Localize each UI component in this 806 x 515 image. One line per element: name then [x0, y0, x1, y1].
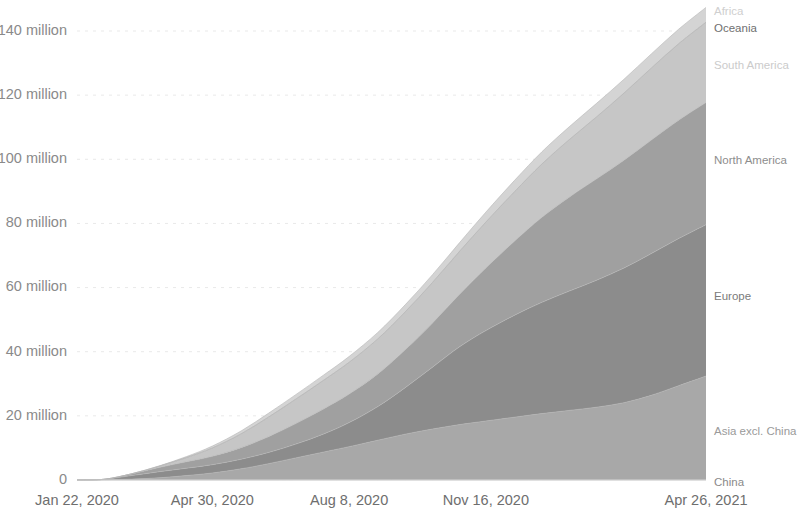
x-tick-label-0: Jan 22, 2020 — [35, 492, 119, 508]
y-tick-label-60: 60 million — [6, 278, 67, 294]
series-label-north-america: North America — [714, 154, 787, 166]
chart-canvas: 020 million40 million60 million80 millio… — [0, 0, 806, 515]
series-label-europe: Europe — [714, 290, 751, 302]
x-tick-label-1: Apr 30, 2020 — [171, 492, 254, 508]
series-inline-labels: AfricaOceaniaSouth AmericaNorth AmericaE… — [714, 5, 797, 488]
area-series-group — [77, 7, 706, 480]
x-tick-label-2: Aug 8, 2020 — [310, 492, 388, 508]
series-label-south-america: South America — [714, 59, 789, 71]
stacked-area-chart: 020 million40 million60 million80 millio… — [0, 0, 806, 515]
series-label-africa: Africa — [714, 5, 744, 17]
x-tick-label-4: Apr 26, 2021 — [664, 492, 747, 508]
y-tick-label-0: 0 — [59, 471, 67, 487]
series-label-asia-excl-china: Asia excl. China — [714, 425, 797, 437]
x-tick-label-3: Nov 16, 2020 — [443, 492, 529, 508]
y-tick-label-20: 20 million — [6, 407, 67, 423]
y-tick-label-80: 80 million — [6, 214, 67, 230]
x-axis-tick-labels: Jan 22, 2020Apr 30, 2020Aug 8, 2020Nov 1… — [35, 492, 747, 508]
y-tick-label-140: 140 million — [0, 22, 67, 38]
y-axis-tick-labels: 020 million40 million60 million80 millio… — [0, 22, 67, 487]
series-label-oceania: Oceania — [714, 22, 757, 34]
y-tick-label-40: 40 million — [6, 343, 67, 359]
y-tick-label-120: 120 million — [0, 86, 67, 102]
series-label-china: China — [714, 476, 745, 488]
y-tick-label-100: 100 million — [0, 150, 67, 166]
